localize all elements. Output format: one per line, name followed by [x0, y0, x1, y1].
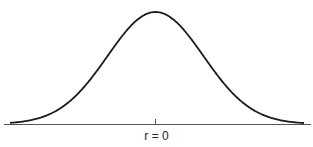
normal-curve	[10, 12, 304, 123]
center-label: r = 0	[0, 129, 313, 143]
bell-curve-chart	[0, 0, 313, 147]
